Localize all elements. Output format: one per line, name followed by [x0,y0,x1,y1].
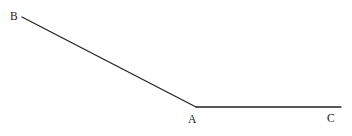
angle-diagram-canvas [0,0,352,136]
ray-ab-line [22,17,196,107]
point-label-b: B [10,10,18,22]
angle-diagram-figure: B A C [0,0,352,136]
point-label-a: A [188,113,197,125]
point-label-c: C [327,112,335,124]
